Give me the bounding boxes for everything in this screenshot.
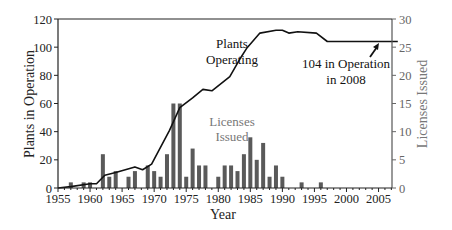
license-bar xyxy=(159,177,163,188)
y-right-tick-label: 20 xyxy=(399,69,412,83)
y-left-tick-label: 0 xyxy=(46,182,52,196)
license-bar xyxy=(261,143,265,188)
y-left-tick-label: 20 xyxy=(40,153,53,167)
license-bar xyxy=(229,165,233,188)
y-left-axis-title: Plants in Operation xyxy=(22,50,37,158)
y-left-tick-label: 40 xyxy=(40,125,53,139)
x-tick-label: 1980 xyxy=(206,192,231,206)
license-bar xyxy=(300,182,304,188)
y-right-tick-label: 30 xyxy=(399,13,412,27)
plants-operating-label: Operating xyxy=(206,52,258,67)
y-right-tick-label: 5 xyxy=(399,153,405,167)
license-bar xyxy=(107,177,111,188)
license-bar xyxy=(242,154,246,188)
nuclear-plants-chart: 1955196019651970197519801985199019952000… xyxy=(0,0,452,230)
x-tick-label: 2005 xyxy=(366,192,391,206)
license-bar xyxy=(133,171,137,188)
license-bar xyxy=(178,104,182,189)
in-operation-2008-label: 104 in Operation xyxy=(302,56,391,71)
license-bar xyxy=(171,104,175,189)
y-left-tick-label: 120 xyxy=(33,13,52,27)
x-tick-label: 1985 xyxy=(238,192,263,206)
y-right-tick-label: 0 xyxy=(399,182,405,196)
license-bar xyxy=(216,177,220,188)
x-tick-label: 1960 xyxy=(78,192,103,206)
license-bar xyxy=(236,171,240,188)
x-axis-title: Year xyxy=(210,207,236,222)
license-bar xyxy=(101,154,105,188)
license-bar xyxy=(197,165,201,188)
license-bar xyxy=(255,160,259,188)
license-bar xyxy=(223,165,227,188)
y-right-axis-title: Licenses Issued xyxy=(415,60,430,148)
license-bar xyxy=(280,177,284,188)
licenses-issued-label: Licenses xyxy=(209,114,254,129)
license-bar xyxy=(191,149,195,188)
license-bar xyxy=(248,137,252,188)
license-bar xyxy=(165,154,169,188)
y-right-tick-label: 15 xyxy=(399,97,412,111)
license-bar xyxy=(268,177,272,188)
x-tick-label: 1990 xyxy=(270,192,295,206)
license-bar xyxy=(274,165,278,188)
license-bar xyxy=(146,165,150,188)
annotations: PlantsOperatingLicensesIssued104 in Oper… xyxy=(206,36,391,144)
chart-canvas: 1955196019651970197519801985199019952000… xyxy=(0,0,452,230)
x-tick-label: 2000 xyxy=(334,192,359,206)
licenses-issued-label: Issued xyxy=(215,129,249,144)
license-bar xyxy=(127,177,131,188)
license-bar xyxy=(203,165,207,188)
y-right-tick-label: 10 xyxy=(399,125,412,139)
in-operation-2008-label: in 2008 xyxy=(326,72,365,87)
plants-operating-label: Plants xyxy=(216,36,248,51)
x-tick-label: 1970 xyxy=(142,192,167,206)
y-left-tick-label: 60 xyxy=(40,97,53,111)
x-tick-label: 1995 xyxy=(302,192,327,206)
y-left-tick-label: 80 xyxy=(40,69,53,83)
x-tick-label: 1965 xyxy=(110,192,135,206)
license-bar xyxy=(152,171,156,188)
x-tick-label: 1975 xyxy=(174,192,199,206)
license-bar xyxy=(184,177,188,188)
y-right-tick-label: 25 xyxy=(399,41,412,55)
license-bar xyxy=(319,182,323,188)
